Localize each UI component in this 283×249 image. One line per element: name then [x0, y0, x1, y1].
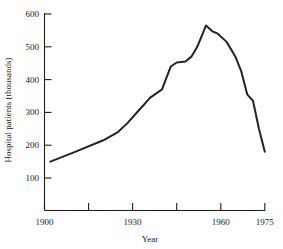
chart-figure: 600 500 400 300 200 100 Hospital patient… — [0, 0, 283, 249]
y-axis-title: Hospital patients (thousands) — [3, 58, 13, 163]
x-tick-label-1900: 1900 — [36, 217, 55, 227]
y-tick-label-300: 300 — [26, 107, 40, 117]
data-line-hospital-patients — [50, 25, 264, 161]
x-tick-label-1975: 1975 — [256, 217, 275, 227]
y-tick-label-400: 400 — [26, 75, 40, 85]
data-series-group — [50, 25, 264, 161]
x-axis-title: Year — [142, 234, 159, 244]
y-tick-label-500: 500 — [26, 42, 40, 52]
x-axis-group: 1900 1930 1960 1975 Year — [36, 203, 275, 244]
y-tick-label-600: 600 — [26, 9, 40, 19]
x-tick-label-1960: 1960 — [212, 217, 231, 227]
y-tick-label-100: 100 — [26, 173, 40, 183]
line-chart-canvas: 600 500 400 300 200 100 Hospital patient… — [0, 0, 283, 249]
x-tick-label-1930: 1930 — [124, 217, 143, 227]
y-axis-group: 600 500 400 300 200 100 Hospital patient… — [3, 9, 52, 210]
y-tick-label-200: 200 — [26, 140, 40, 150]
